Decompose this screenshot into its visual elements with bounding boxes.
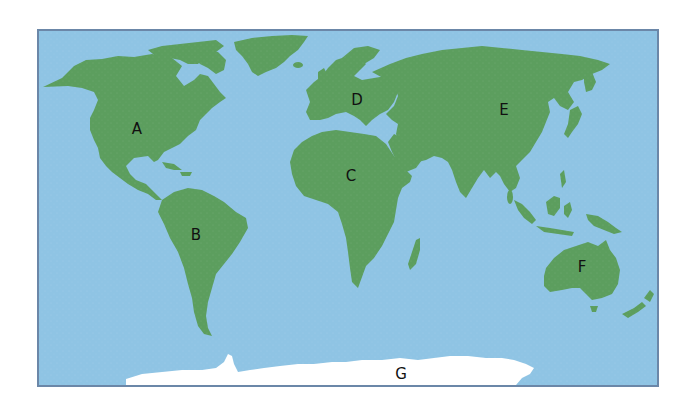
label-a-north-america: A — [132, 122, 142, 137]
label-g-antarctica: G — [395, 367, 407, 382]
label-c-africa: C — [346, 169, 356, 184]
label-f-australia: F — [578, 260, 587, 275]
label-d-europe: D — [351, 93, 363, 108]
label-e-asia: E — [499, 103, 508, 118]
world-map-frame — [37, 29, 659, 387]
world-map — [39, 31, 657, 385]
paper-texture — [39, 31, 657, 385]
label-b-south-america: B — [191, 228, 201, 243]
